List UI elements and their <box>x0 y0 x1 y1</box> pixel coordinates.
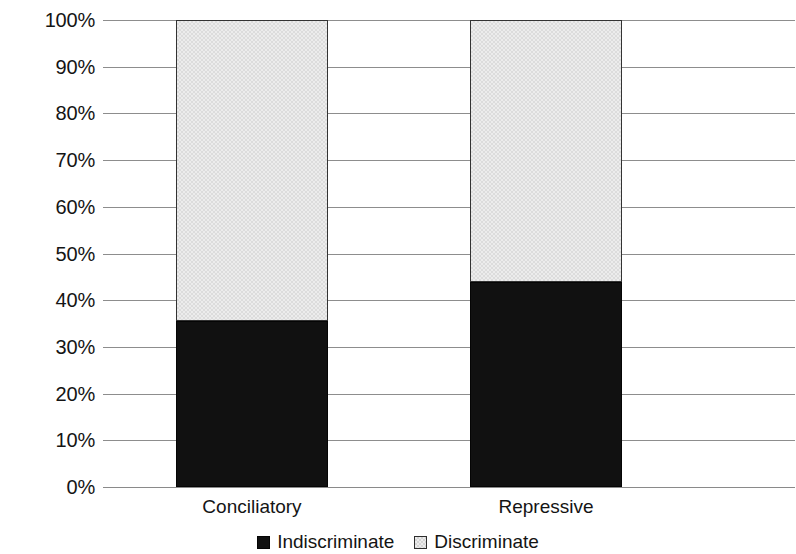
legend-item-indiscriminate[interactable]: Indiscriminate <box>257 532 394 552</box>
x-axis-label-repressive: Repressive <box>436 494 656 520</box>
chart-legend: IndiscriminateDiscriminate <box>0 530 796 554</box>
y-tick-label: 0% <box>9 477 95 497</box>
y-tick-label: 40% <box>9 290 95 310</box>
legend-item-discriminate[interactable]: Discriminate <box>414 532 539 552</box>
legend-label: Indiscriminate <box>277 532 394 552</box>
bar-group <box>470 20 622 487</box>
x-axis-label-conciliatory: Conciliatory <box>142 494 362 520</box>
legend-label: Discriminate <box>434 532 539 552</box>
plot-area <box>103 20 795 487</box>
legend-swatch-light-icon <box>414 536 427 549</box>
stacked-bar-chart: 100%90%80%70%60%50%40%30%20%10%0% Concil… <box>0 0 796 554</box>
y-tick-label: 30% <box>9 337 95 357</box>
y-axis-tick-labels: 100%90%80%70%60%50%40%30%20%10%0% <box>0 20 95 487</box>
legend-swatch-dark-icon <box>257 536 270 549</box>
y-tick-label: 10% <box>9 430 95 450</box>
y-tick-label: 100% <box>9 10 95 30</box>
x-axis-category-labels: ConciliatoryRepressive <box>103 494 795 522</box>
y-tick-label: 50% <box>9 244 95 264</box>
bar-segment-indiscriminate <box>470 282 622 487</box>
bar-segment-indiscriminate <box>176 321 328 487</box>
bar-group <box>176 20 328 487</box>
y-tick-label: 80% <box>9 103 95 123</box>
gridline-0 <box>103 487 795 488</box>
y-tick-label: 60% <box>9 197 95 217</box>
y-tick-label: 70% <box>9 150 95 170</box>
y-tick-label: 20% <box>9 384 95 404</box>
bar-segment-discriminate <box>176 20 328 321</box>
y-tick-label: 90% <box>9 57 95 77</box>
bar-segment-discriminate <box>470 20 622 282</box>
